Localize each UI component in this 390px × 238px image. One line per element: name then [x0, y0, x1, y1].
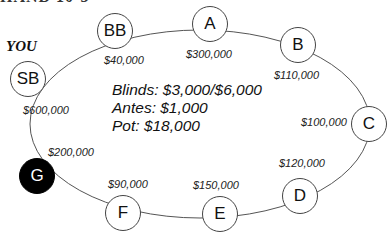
you-label: YOU — [6, 38, 37, 55]
seat-e: E — [202, 196, 238, 232]
seat-b: B — [280, 27, 316, 63]
antes-text: Antes: $1,000 — [112, 99, 262, 117]
stack-a: $300,000 — [186, 48, 232, 60]
seat-c: C — [351, 106, 387, 142]
stack-f: $90,000 — [108, 178, 148, 190]
blinds-text: Blinds: $3,000/$6,000 — [112, 81, 262, 99]
seat-d: D — [282, 178, 318, 214]
game-info: Blinds: $3,000/$6,000 Antes: $1,000 Pot:… — [112, 81, 262, 135]
stack-b: $110,000 — [274, 69, 319, 81]
stack-sb: $600,000 — [23, 104, 69, 116]
seat-a: A — [192, 6, 228, 42]
stack-e: $150,000 — [193, 179, 239, 191]
seat-f: F — [105, 195, 141, 231]
stack-g: $200,000 — [48, 146, 94, 158]
seat-sb: SB — [10, 61, 46, 97]
pot-text: Pot: $18,000 — [112, 117, 262, 135]
seat-g-hero: G — [19, 158, 55, 194]
seat-bb: BB — [97, 13, 133, 49]
stack-d: $120,000 — [279, 157, 325, 169]
stack-c: $100,000 — [301, 116, 347, 128]
stack-bb: $40,000 — [104, 54, 144, 66]
